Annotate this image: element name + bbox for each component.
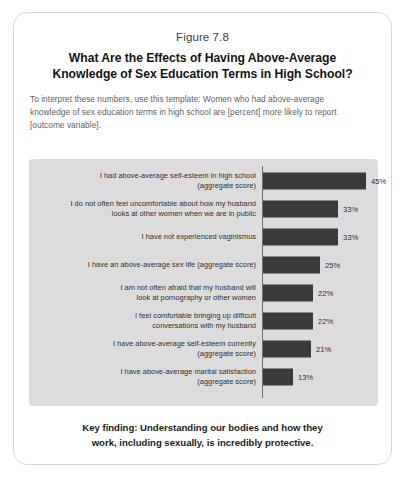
figure-card: Figure 7.8 What Are the Effects of Havin… [13,12,392,465]
bar-value-label: 22% [318,317,333,326]
bar-row-label: I had above-average self-esteem in high … [37,171,256,190]
key-finding-line-1: Key finding: Understanding our bodies an… [36,421,369,436]
bar-row-label-line: I have above-average self-esteem current… [37,339,256,349]
bar-row-label-line: I have an above-average sex life (aggreg… [37,260,256,270]
bar [263,257,320,274]
bar-row-label: I do not often feel uncomfortable about … [37,199,256,218]
bar-row: I have not experienced vaginismus33% [29,223,378,251]
bar-row-label: I feel comfortable bringing up difficult… [37,311,256,330]
bar-value-label: 33% [343,233,358,242]
chart-panel: I had above-average self-esteem in high … [29,159,378,406]
bar-row-label-line: (aggregate score) [37,181,256,191]
bar-row: I do not often feel uncomfortable about … [29,195,378,223]
bar-row-label-line: look at pornography or other women [37,293,256,303]
bar-value-label: 25% [325,261,340,270]
figure-title: What Are the Effects of Having Above-Ave… [14,50,391,82]
key-finding-line-2: work, including sexually, is incredibly … [36,436,369,451]
bar-row-label: I have above-average marital satisfactio… [37,367,256,386]
bar-value-label: 33% [343,205,358,214]
bar [263,201,338,218]
bar-value-label: 45% [371,177,386,186]
bar [263,369,293,386]
figure-description-line-1: To interpret these numbers, use this tem… [30,93,375,106]
figure-description-line-2: knowledge of sex education terms in high… [30,106,375,119]
bar-value-label: 21% [316,345,331,354]
figure-description-line-3: [outcome variable]. [30,119,375,132]
bar [263,313,313,330]
bar-row-label-line: I feel comfortable bringing up difficult [37,311,256,321]
key-finding-note: Key finding: Understanding our bodies an… [14,421,391,450]
bar-row-label-line: I have above-average marital satisfactio… [37,367,256,377]
bar-row: I had above-average self-esteem in high … [29,167,378,195]
bar-row-label-line: I have not experienced vaginismus [37,232,256,242]
bar-value-label: 22% [318,289,333,298]
bar-row-label-line: looks at other women when we are in publ… [37,209,256,219]
bar-row-label-line: (aggregate score) [37,349,256,359]
bar-row-label: I am not often afraid that my husband wi… [37,283,256,302]
bar-row: I have above-average marital satisfactio… [29,363,378,391]
figure-description: To interpret these numbers, use this tem… [30,93,375,132]
figure-title-line-1: What Are the Effects of Having Above-Ave… [30,50,375,66]
bar [263,229,338,246]
bar-row: I have an above-average sex life (aggreg… [29,251,378,279]
bar-chart-plot: I had above-average self-esteem in high … [29,159,378,406]
bar [263,341,311,358]
bar-row-label: I have an above-average sex life (aggreg… [37,260,256,270]
bar-row-label-line: (aggregate score) [37,377,256,387]
bar [263,173,366,190]
bar-value-label: 13% [298,373,313,382]
bar-row-label-line: conversations with my husband [37,321,256,331]
bar [263,285,313,302]
bar-row: I feel comfortable bringing up difficult… [29,307,378,335]
bar-row: I am not often afraid that my husband wi… [29,279,378,307]
figure-number: Figure 7.8 [14,30,391,44]
bar-row-label-line: I am not often afraid that my husband wi… [37,283,256,293]
bar-row-label-line: I do not often feel uncomfortable about … [37,199,256,209]
bar-row: I have above-average self-esteem current… [29,335,378,363]
bar-row-label: I have above-average self-esteem current… [37,339,256,358]
bar-row-label-line: I had above-average self-esteem in high … [37,171,256,181]
bar-row-label: I have not experienced vaginismus [37,232,256,242]
figure-title-line-2: Knowledge of Sex Education Terms in High… [30,66,375,82]
